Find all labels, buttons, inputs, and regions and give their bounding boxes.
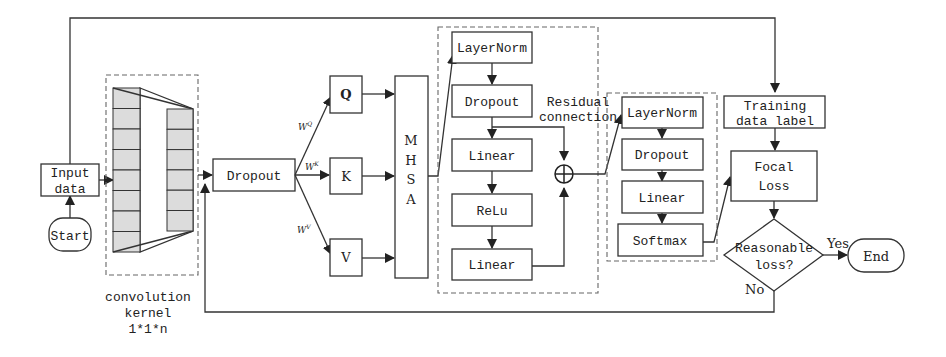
- ffn-linear1-label: Linear: [469, 149, 516, 164]
- mhsa-letter-m: M: [404, 133, 417, 148]
- conv-label-2: kernel: [125, 306, 172, 321]
- head-linear-node: Linear: [622, 181, 703, 213]
- k-node: K: [330, 158, 362, 194]
- ffn-relu-label: ReLu: [476, 204, 507, 219]
- no-label: No: [745, 282, 764, 297]
- wv-arrow: [295, 175, 331, 254]
- input-label-1: Input: [50, 166, 89, 181]
- head-softmax-node: Softmax: [618, 224, 703, 256]
- ffn-dropout-label: Dropout: [465, 95, 520, 110]
- v-label: V: [340, 250, 351, 265]
- wv-label: WV: [297, 223, 311, 235]
- head-layernorm-node: LayerNorm: [622, 97, 703, 128]
- start-label: Start: [50, 229, 89, 244]
- end-node: End: [848, 239, 904, 272]
- dropout-node: Dropout: [213, 159, 295, 191]
- head-layernorm-label: LayerNorm: [627, 106, 697, 121]
- ffn-linear2-node: Linear: [452, 249, 532, 280]
- input-label-2: data: [54, 182, 85, 197]
- head-dropout-node: Dropout: [622, 139, 703, 170]
- training-label-1: Training: [744, 99, 806, 114]
- mhsa-letter-h: H: [405, 153, 416, 168]
- dropout-label: Dropout: [227, 169, 282, 184]
- residual-label-2: connection: [539, 110, 617, 125]
- conv-label-3: 1*1*n: [128, 322, 167, 337]
- wq-label: WQ: [298, 120, 312, 132]
- transformer-training-flowchart: Start Input data convolution kernel 1*1*…: [0, 0, 946, 357]
- ffn-dropout-node: Dropout: [452, 85, 532, 117]
- ffn-layernorm-label: LayerNorm: [457, 41, 527, 56]
- mhsa-node: M H S A: [395, 76, 428, 278]
- ffn-linear2-label: Linear: [469, 258, 516, 273]
- conv-kernel-graphic: [113, 88, 193, 252]
- start-node: Start: [49, 218, 91, 251]
- mhsa-letter-s: S: [407, 172, 416, 187]
- training-label-node: Training data label: [724, 96, 825, 129]
- ffn-relu-node: ReLu: [452, 194, 532, 226]
- decision-label-1: Reasonable: [735, 241, 813, 256]
- wk-label: WK: [305, 160, 319, 172]
- decision-label-2: loss?: [754, 258, 793, 273]
- focal-label-2: Loss: [758, 179, 789, 194]
- mhsa-letter-a: A: [405, 192, 416, 207]
- yes-label: Yes: [826, 236, 849, 251]
- mhsa-to-ffn-arrow: [428, 55, 453, 176]
- focal-label-1: Focal: [754, 160, 793, 175]
- end-label: End: [863, 249, 889, 264]
- conv-label-1: convolution: [105, 290, 191, 305]
- head-dropout-label: Dropout: [635, 148, 690, 163]
- ffn-linear1-node: Linear: [452, 139, 532, 171]
- input-data-node: Input data: [41, 164, 99, 197]
- q-label: Q: [340, 87, 351, 102]
- add-icon: [555, 165, 573, 183]
- head-linear-label: Linear: [639, 191, 686, 206]
- ffn-layernorm-node: LayerNorm: [452, 32, 532, 63]
- q-node: Q: [330, 76, 362, 113]
- v-node: V: [330, 239, 362, 276]
- training-label-2: data label: [736, 114, 814, 129]
- decision-node: Reasonable loss?: [724, 219, 823, 291]
- focal-loss-node: Focal Loss: [731, 151, 817, 201]
- head-softmax-label: Softmax: [633, 234, 688, 249]
- k-label: K: [341, 169, 351, 184]
- linear-to-add-arrow: [532, 188, 564, 266]
- residual-label-1: Residual: [547, 95, 610, 110]
